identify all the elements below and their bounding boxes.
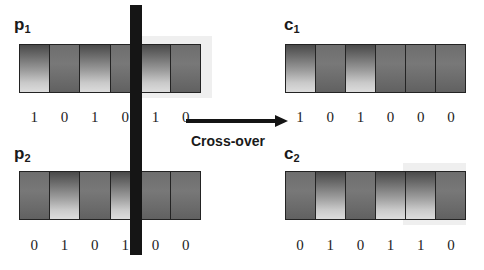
p2-gene-cell-3 <box>80 172 110 219</box>
c1-gene-cell-4 <box>376 45 406 92</box>
crossover-arrow <box>186 115 288 127</box>
p1-bit-3: 1 <box>80 110 110 125</box>
p2-gene-strip <box>19 171 201 220</box>
c2-bit-4: 1 <box>376 238 406 253</box>
p2-bit-2: 1 <box>49 238 79 253</box>
p1-bit-2: 0 <box>49 110 79 125</box>
c2-gene-cell-1 <box>286 172 316 219</box>
p1-bit-1: 1 <box>19 110 49 125</box>
c1-bit-3: 1 <box>345 110 375 125</box>
p2-gene-cell-2 <box>50 172 80 219</box>
chromosome-c1-label: c1 <box>284 16 300 33</box>
crossover-cut-bar <box>130 5 142 255</box>
arrow-shaft-icon <box>186 119 276 123</box>
chromosome-c2-label: c2 <box>284 145 300 162</box>
p1-gene-cell-5 <box>141 45 171 92</box>
c1-bit-row: 1 0 1 0 0 0 <box>285 110 466 125</box>
p1-gene-cell-2 <box>50 45 80 92</box>
c2-gene-cell-3 <box>346 172 376 219</box>
c1-bit-1: 1 <box>285 110 315 125</box>
crossover-diagram: p1 1 0 1 0 1 0 p2 <box>0 0 484 270</box>
p2-bit-3: 0 <box>80 238 110 253</box>
p1-label-subscript: 1 <box>24 23 30 35</box>
c1-gene-cell-2 <box>316 45 346 92</box>
c1-bit-5: 0 <box>406 110 436 125</box>
p2-bit-1: 0 <box>19 238 49 253</box>
right-arrow-icon <box>275 115 288 127</box>
c2-gene-cell-2 <box>316 172 346 219</box>
c1-bit-4: 0 <box>376 110 406 125</box>
p1-label-text: p <box>14 15 24 34</box>
chromosome-p1-label: p1 <box>14 16 31 33</box>
c2-bit-6: 0 <box>436 238 466 253</box>
c1-bit-2: 0 <box>315 110 345 125</box>
c2-gene-strip <box>285 171 466 220</box>
c2-gene-cell-4 <box>376 172 406 219</box>
c2-bit-2: 1 <box>315 238 345 253</box>
c1-gene-cell-3 <box>346 45 376 92</box>
p1-gene-cell-6 <box>171 45 200 92</box>
p1-gene-cell-3 <box>80 45 110 92</box>
p1-bit-row: 1 0 1 0 1 0 <box>19 110 201 125</box>
c1-bit-6: 0 <box>436 110 466 125</box>
p2-bit-row: 0 1 0 1 0 0 <box>19 238 201 253</box>
c2-bit-1: 0 <box>285 238 315 253</box>
p2-gene-cell-5 <box>141 172 171 219</box>
c1-gene-strip <box>285 44 466 93</box>
p2-bit-5: 0 <box>140 238 170 253</box>
p2-gene-cell-1 <box>20 172 50 219</box>
crossover-caption: Cross-over <box>191 134 265 148</box>
c1-gene-cell-6 <box>436 45 465 92</box>
c2-bit-row: 0 1 0 1 1 0 <box>285 238 466 253</box>
p2-label-subscript: 2 <box>24 152 30 164</box>
c2-gene-cell-5 <box>406 172 436 219</box>
p1-bit-5: 1 <box>140 110 170 125</box>
p2-bit-6: 0 <box>171 238 201 253</box>
chromosome-p2-label: p2 <box>14 145 31 162</box>
c2-bit-3: 0 <box>345 238 375 253</box>
p1-gene-cell-1 <box>20 45 50 92</box>
c1-gene-cell-5 <box>406 45 436 92</box>
c2-gene-cell-6 <box>436 172 465 219</box>
c1-gene-cell-1 <box>286 45 316 92</box>
p1-gene-strip <box>19 44 201 93</box>
c2-label-subscript: 2 <box>293 152 299 164</box>
c1-label-subscript: 1 <box>293 23 299 35</box>
p2-gene-cell-6 <box>171 172 200 219</box>
c2-bit-5: 1 <box>406 238 436 253</box>
p2-label-text: p <box>14 144 24 163</box>
